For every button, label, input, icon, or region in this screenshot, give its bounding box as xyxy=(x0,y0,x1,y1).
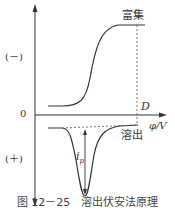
enrichment-curve xyxy=(48,25,145,106)
peak-current-label: ip xyxy=(76,151,84,165)
x-axis-arrow xyxy=(159,113,167,118)
origin-label: 0 xyxy=(20,109,26,119)
ip-arrow-up xyxy=(83,129,87,135)
baseline-dashed xyxy=(62,125,138,128)
positive-label: (＋) xyxy=(5,154,23,164)
strip-label: 溶出 xyxy=(121,130,143,141)
point-d-label: D xyxy=(141,101,150,112)
peak-current-subscript: p xyxy=(80,157,84,165)
negative-label: (－) xyxy=(5,52,23,62)
x-axis-label: φ/V xyxy=(149,121,167,131)
enrich-label: 富集 xyxy=(122,10,144,21)
y-axis-arrow-up xyxy=(33,4,38,12)
figure-caption: 图 12－25 溶出伏安法原理 xyxy=(0,193,175,209)
